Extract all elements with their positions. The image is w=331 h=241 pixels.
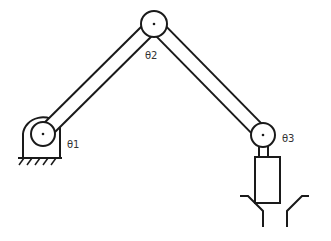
- gripper-body: [255, 157, 280, 203]
- label-theta1: θ1: [67, 139, 79, 150]
- joint-2: [141, 11, 167, 37]
- right-finger: [287, 196, 309, 227]
- label-theta2: θ2: [145, 50, 157, 61]
- robot-arm-diagram: θ1 θ2 θ3: [0, 0, 331, 241]
- label-theta3: θ3: [282, 133, 294, 144]
- link-1: [43, 24, 154, 134]
- link-2: [154, 24, 263, 135]
- ground-hatch: [19, 158, 56, 165]
- joint-3: [251, 123, 275, 147]
- joint-1: [31, 122, 55, 146]
